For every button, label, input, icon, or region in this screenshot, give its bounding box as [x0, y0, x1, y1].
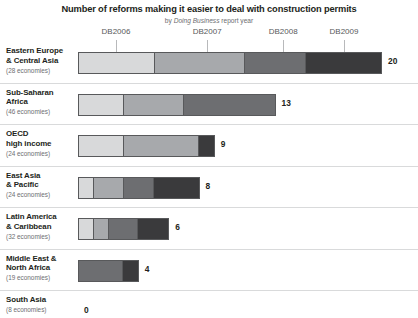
bar-row[interactable]: Eastern Europe& Central Asia(28 economie…: [0, 42, 418, 84]
bar-segment-db2009[interactable]: [138, 219, 168, 239]
row-label: Middle East &North Africa(19 economies): [6, 254, 72, 283]
bar-segment-db2007[interactable]: [155, 53, 246, 73]
row-economies-count: (8 economies): [6, 305, 72, 314]
row-name-line2: Africa: [6, 97, 72, 107]
chart-subtitle-suffix: report year: [219, 17, 253, 24]
bar-row[interactable]: OECDhigh income(24 economies)9: [0, 125, 418, 167]
bar-value-label: 6: [175, 222, 180, 232]
bar-segment-db2006[interactable]: [79, 178, 94, 198]
axis-tick-db2006: DB2006: [102, 27, 131, 36]
row-name-line2: & Pacific: [6, 180, 72, 190]
bar-value-label: 9: [221, 139, 226, 149]
bar-value-label: 4: [145, 264, 150, 274]
chart-title: Number of reforms making it easier to de…: [0, 4, 418, 15]
bar-value-label: 8: [206, 181, 211, 191]
row-name-line2: North Africa: [6, 263, 72, 273]
row-label: Eastern Europe& Central Asia(28 economie…: [6, 46, 72, 75]
bar-segment-db2007[interactable]: [94, 178, 124, 198]
row-economies-count: (24 economies): [6, 190, 72, 199]
bar-segment-db2008[interactable]: [245, 53, 305, 73]
row-economies-count: (19 economies): [6, 273, 72, 282]
row-label: Latin America& Caribbean(32 economies): [6, 212, 72, 241]
row-economies-count: (24 economies): [6, 149, 72, 158]
row-name: Latin America: [6, 212, 72, 222]
row-name: East Asia: [6, 171, 72, 181]
stacked-bar[interactable]: [78, 135, 215, 157]
bar-segment-db2009[interactable]: [154, 178, 199, 198]
stacked-bar[interactable]: [78, 218, 169, 240]
stacked-bar[interactable]: [78, 260, 139, 282]
row-economies-count: (28 economies): [6, 66, 72, 75]
chart-subtitle-emphasis: Doing Business: [174, 17, 220, 24]
row-label: South Asia(8 economies): [6, 295, 72, 314]
chart-subtitle-prefix: by: [165, 17, 174, 24]
stacked-bar[interactable]: [78, 52, 382, 74]
stacked-bar[interactable]: [78, 177, 200, 199]
bar-segment-db2006[interactable]: [79, 136, 124, 156]
axis-tick-db2009: DB2009: [330, 27, 359, 36]
bar-segment-db2009[interactable]: [123, 261, 138, 281]
row-label: OECDhigh income(24 economies): [6, 129, 72, 158]
bar-segment-db2009[interactable]: [306, 53, 382, 73]
axis-tick-db2008: DB2008: [269, 27, 298, 36]
bar-row[interactable]: Latin America& Caribbean(32 economies)6: [0, 208, 418, 250]
chart-subtitle: by Doing Business report year: [0, 16, 418, 25]
bar-row[interactable]: South Asia(8 economies)0: [0, 291, 418, 318]
bar-segment-db2008[interactable]: [184, 95, 274, 115]
chart-plot-area: Eastern Europe& Central Asia(28 economie…: [0, 42, 418, 318]
bar-segment-db2008[interactable]: [109, 219, 139, 239]
row-name: OECD: [6, 129, 72, 139]
bar-segment-db2008[interactable]: [79, 261, 123, 281]
bar-row[interactable]: Sub-SaharanAfrica(46 economies)13: [0, 84, 418, 126]
row-name: Sub-Saharan: [6, 88, 72, 98]
bar-value-label: 0: [84, 305, 89, 315]
row-name: Middle East &: [6, 254, 72, 264]
row-label: East Asia& Pacific(24 economies): [6, 171, 72, 200]
bar-value-label: 13: [282, 98, 291, 108]
chart-header: Number of reforms making it easier to de…: [0, 0, 418, 25]
axis-tick-db2007: DB2007: [193, 27, 222, 36]
bar-segment-db2006[interactable]: [79, 219, 94, 239]
bar-segment-db2007[interactable]: [124, 95, 184, 115]
bar-segment-db2007[interactable]: [124, 136, 199, 156]
row-name-line2: high income: [6, 139, 72, 149]
bar-row[interactable]: Middle East &North Africa(19 economies)4: [0, 250, 418, 292]
row-name-line2: & Caribbean: [6, 222, 72, 232]
bar-row[interactable]: East Asia& Pacific(24 economies)8: [0, 167, 418, 209]
bar-rows: Eastern Europe& Central Asia(28 economie…: [0, 42, 418, 318]
bar-segment-db2008[interactable]: [124, 178, 154, 198]
row-economies-count: (32 economies): [6, 232, 72, 241]
bar-value-label: 20: [388, 56, 397, 66]
row-economies-count: (46 economies): [6, 107, 72, 116]
row-name-line2: & Central Asia: [6, 56, 72, 66]
stacked-bar[interactable]: [78, 94, 276, 116]
bar-segment-db2006[interactable]: [79, 53, 155, 73]
bar-segment-db2007[interactable]: [94, 219, 109, 239]
row-name: South Asia: [6, 295, 72, 305]
bar-segment-db2009[interactable]: [199, 136, 214, 156]
row-name: Eastern Europe: [6, 46, 72, 56]
bar-segment-db2006[interactable]: [79, 95, 124, 115]
axis-tick-labels: DB2006DB2007DB2008DB2009: [0, 27, 418, 42]
row-label: Sub-SaharanAfrica(46 economies): [6, 88, 72, 117]
